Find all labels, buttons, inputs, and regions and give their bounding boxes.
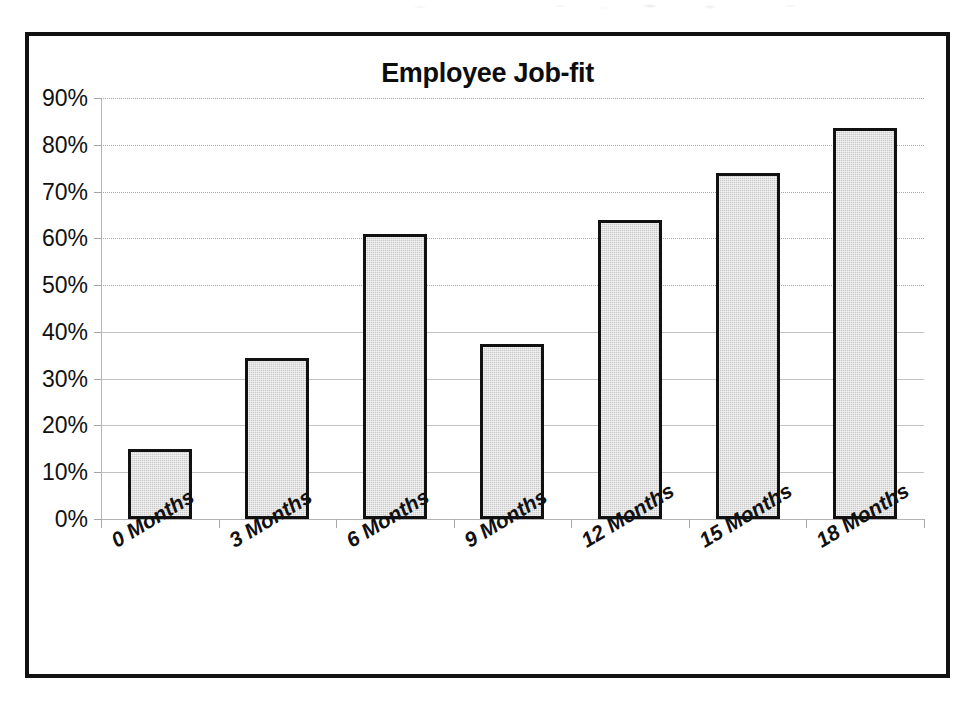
x-tick — [689, 519, 690, 528]
y-axis-label: 30% — [42, 365, 88, 392]
plot-area: 90%80%70%60%50%40%30%20%10%0% 0 Months3 … — [101, 98, 924, 519]
y-axis-label: 90% — [42, 85, 88, 112]
x-tick — [806, 519, 807, 528]
y-tick-60 — [94, 238, 101, 239]
y-axis-label: 0% — [55, 506, 88, 533]
scan-artifact-band — [0, 0, 975, 18]
bars-group — [101, 98, 924, 519]
y-axis-label: 80% — [42, 131, 88, 158]
y-tick-80 — [94, 145, 101, 146]
y-tick-0 — [94, 519, 101, 520]
bar-18-months[interactable] — [833, 128, 897, 519]
y-tick-70 — [94, 192, 101, 193]
chart-title: Employee Job-fit — [29, 58, 946, 89]
x-tick — [571, 519, 572, 528]
y-axis-label: 20% — [42, 412, 88, 439]
y-tick-90 — [94, 98, 101, 99]
x-tick — [101, 519, 102, 528]
chart-frame: Employee Job-fit 90%80%70%60%50%40%30%20… — [25, 32, 950, 678]
y-axis-label: 40% — [42, 318, 88, 345]
x-tick — [219, 519, 220, 528]
y-tick-10 — [94, 472, 101, 473]
bar-12-months[interactable] — [598, 220, 662, 519]
bar-6-months[interactable] — [363, 234, 427, 519]
y-tick-50 — [94, 285, 101, 286]
y-tick-30 — [94, 379, 101, 380]
x-tick — [454, 519, 455, 528]
bar-15-months[interactable] — [716, 173, 780, 519]
y-axis-label: 60% — [42, 225, 88, 252]
bar-slot — [571, 98, 689, 519]
bar-slot — [101, 98, 219, 519]
bar-slot — [806, 98, 924, 519]
y-tick-20 — [94, 425, 101, 426]
bar-slot — [689, 98, 807, 519]
y-axis-label: 70% — [42, 178, 88, 205]
x-tick — [924, 519, 925, 528]
x-tick — [336, 519, 337, 528]
y-tick-40 — [94, 332, 101, 333]
bar-slot — [454, 98, 572, 519]
y-axis-label: 10% — [42, 459, 88, 486]
bar-slot — [219, 98, 337, 519]
y-axis-label: 50% — [42, 272, 88, 299]
bar-slot — [336, 98, 454, 519]
